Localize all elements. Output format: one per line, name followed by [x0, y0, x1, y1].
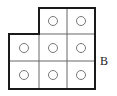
circle-icon [20, 44, 29, 53]
circle-icon [77, 17, 86, 26]
circle-icon [49, 44, 58, 53]
circle-icon [77, 71, 86, 80]
circle-markers [20, 17, 86, 80]
grid-lines [9, 8, 95, 89]
outer-border [9, 8, 95, 89]
figure-label: B [100, 54, 108, 68]
circle-icon [49, 17, 58, 26]
circle-icon [20, 71, 29, 80]
circle-icon [49, 71, 58, 80]
circle-icon [77, 44, 86, 53]
l-shaped-grid-figure [0, 0, 117, 96]
